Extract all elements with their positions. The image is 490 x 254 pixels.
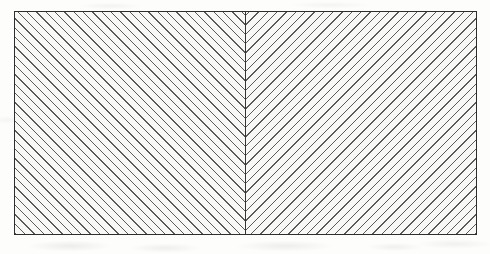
left-hatch-region [15, 12, 245, 234]
right-hatch-region [245, 12, 476, 234]
figure-canvas: Hatched rectangle divided into two mirro… [0, 0, 490, 254]
hatched-rectangle-frame [14, 11, 477, 235]
left-hatch-lines [15, 12, 245, 234]
right-hatch-lines [245, 12, 476, 234]
center-divider-line [245, 12, 246, 234]
